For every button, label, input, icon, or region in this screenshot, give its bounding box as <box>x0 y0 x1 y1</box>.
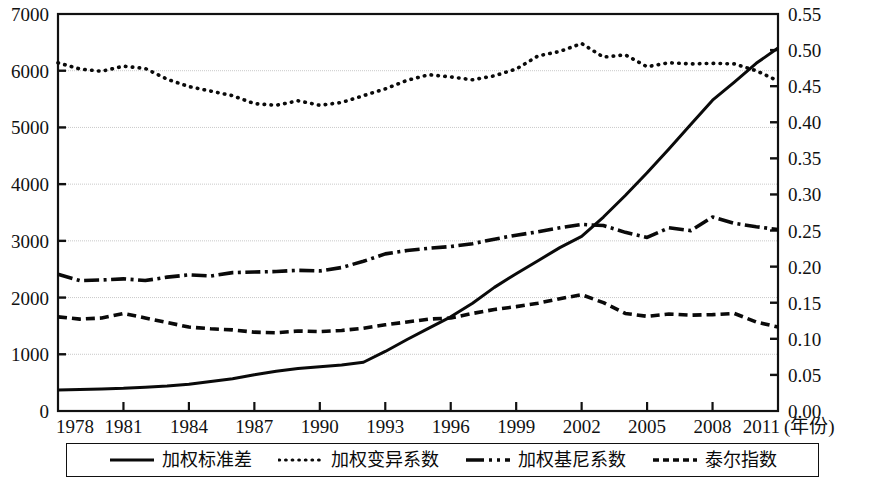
right-tick-0.30: 0.30 <box>788 184 821 205</box>
dual-axis-line-chart: 01000200030004000500060007000 0.000.050.… <box>0 0 883 481</box>
left-tick-7000: 7000 <box>11 4 49 25</box>
x-axis-ticks <box>123 402 712 411</box>
legend-item-2: 加权基尼系数 <box>465 451 626 469</box>
right-tick-0.25: 0.25 <box>788 221 821 242</box>
left-tick-6000: 6000 <box>11 61 49 82</box>
left-axis-ticks <box>58 71 66 355</box>
left-tick-5000: 5000 <box>11 117 49 138</box>
legend-label-3: 泰尔指数 <box>705 451 777 469</box>
legend-swatch-dashdot <box>465 454 511 466</box>
legend-item-0: 加权标准差 <box>109 451 252 469</box>
x-axis-unit: (年份) <box>784 416 835 438</box>
right-tick-0.05: 0.05 <box>788 365 821 386</box>
x-tick-1990: 1990 <box>301 416 339 437</box>
x-tick-2008: 2008 <box>694 416 732 437</box>
x-tick-1984: 1984 <box>170 416 209 437</box>
right-tick-0.10: 0.10 <box>788 329 821 350</box>
left-tick-0: 0 <box>40 401 50 422</box>
x-tick-1981: 1981 <box>104 416 142 437</box>
right-tick-0.20: 0.20 <box>788 257 821 278</box>
x-tick-1978: 1978 <box>56 416 94 437</box>
x-axis-tick-labels: 1978198119841987199019931996199920022005… <box>56 416 780 437</box>
series-line-0 <box>58 48 778 390</box>
legend-item-3: 泰尔指数 <box>652 451 777 469</box>
x-tick-2005: 2005 <box>628 416 666 437</box>
left-tick-3000: 3000 <box>11 231 49 252</box>
right-tick-0.40: 0.40 <box>788 112 821 133</box>
x-tick-1987: 1987 <box>235 416 273 437</box>
left-tick-4000: 4000 <box>11 174 49 195</box>
right-axis-tick-labels: 0.000.050.100.150.200.250.300.350.400.45… <box>788 4 821 422</box>
x-tick-2002: 2002 <box>563 416 601 437</box>
x-axis-unit-label: (年份) <box>784 416 835 438</box>
chart-figure: 01000200030004000500060007000 0.000.050.… <box>0 0 883 481</box>
legend-swatch-dotted <box>278 454 324 466</box>
x-tick-1993: 1993 <box>366 416 404 437</box>
chart-legend: 加权标准差 加权变异系数 加权基尼系数 泰尔指数 <box>66 443 819 477</box>
legend-item-1: 加权变异系数 <box>278 451 439 469</box>
legend-swatch-dashed <box>652 454 698 466</box>
gridlines <box>58 71 778 355</box>
left-axis-tick-labels: 01000200030004000500060007000 <box>11 4 49 422</box>
series-line-1 <box>58 43 778 105</box>
left-tick-1000: 1000 <box>11 344 49 365</box>
right-tick-0.35: 0.35 <box>788 148 821 169</box>
series-lines <box>58 43 778 390</box>
legend-label-2: 加权基尼系数 <box>518 451 626 469</box>
right-tick-0.45: 0.45 <box>788 76 821 97</box>
x-tick-2011: 2011 <box>743 416 780 437</box>
series-line-3 <box>58 295 778 333</box>
legend-swatch-solid <box>109 454 155 466</box>
plot-frame <box>58 14 778 411</box>
right-tick-0.15: 0.15 <box>788 293 821 314</box>
right-tick-0.50: 0.50 <box>788 40 821 61</box>
x-tick-1996: 1996 <box>432 416 470 437</box>
left-tick-2000: 2000 <box>11 288 49 309</box>
x-tick-1999: 1999 <box>497 416 535 437</box>
right-tick-0.55: 0.55 <box>788 4 821 25</box>
legend-label-1: 加权变异系数 <box>331 451 439 469</box>
legend-label-0: 加权标准差 <box>162 451 252 469</box>
series-line-2 <box>58 217 778 281</box>
